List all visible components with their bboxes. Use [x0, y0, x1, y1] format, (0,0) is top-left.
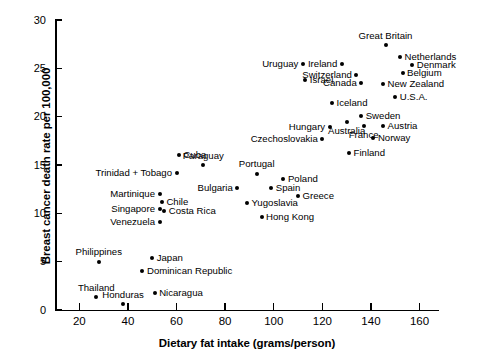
- x-tick-mark: [224, 303, 226, 310]
- data-point: [347, 151, 351, 155]
- data-point: [177, 153, 181, 157]
- data-point-label: Philippines: [76, 247, 122, 257]
- data-point: [345, 120, 349, 124]
- scatter-plot-figure: 051015202530 20406080100120140160 Great …: [0, 0, 482, 360]
- data-point-label: U.S.A.: [400, 92, 428, 102]
- x-tick-label: 40: [108, 315, 148, 327]
- x-tick-label: 160: [400, 315, 440, 327]
- x-tick-mark: [79, 303, 81, 310]
- x-tick-mark: [176, 303, 178, 310]
- y-tick-mark: [55, 68, 62, 70]
- y-tick-mark: [55, 261, 62, 263]
- data-point-label: Nicaragua: [159, 288, 203, 298]
- data-point: [245, 201, 249, 205]
- data-point-label: Canada: [323, 78, 357, 88]
- plot-area: 051015202530 20406080100120140160 Great …: [0, 0, 482, 360]
- data-point-label: Hungary: [289, 122, 325, 132]
- data-point: [201, 163, 205, 167]
- data-point-label: Portugal: [239, 159, 275, 169]
- y-tick-mark: [55, 164, 62, 166]
- y-tick-label: 30: [12, 15, 46, 26]
- x-tick-label: 20: [59, 315, 99, 327]
- data-point: [381, 82, 385, 86]
- data-point-label: Finland: [354, 148, 385, 158]
- data-point: [381, 124, 385, 128]
- data-point: [328, 125, 332, 129]
- data-point-label: Great Britain: [359, 31, 413, 41]
- data-point: [398, 55, 402, 59]
- data-point: [235, 186, 239, 190]
- data-point-label: New Zealand: [388, 79, 445, 89]
- y-tick-label: 0: [12, 305, 46, 316]
- data-point: [97, 260, 101, 264]
- data-point-label: Paraguay: [183, 151, 224, 161]
- data-point-label: Greece: [303, 191, 334, 201]
- data-point: [281, 177, 285, 181]
- x-tick-mark: [419, 303, 421, 310]
- data-point: [121, 302, 125, 306]
- data-point: [359, 114, 363, 118]
- data-point: [359, 81, 363, 85]
- data-point-label: Japan: [157, 253, 183, 263]
- x-tick-mark: [127, 303, 129, 310]
- data-point: [260, 215, 264, 219]
- data-point: [269, 186, 273, 190]
- data-point: [162, 209, 166, 213]
- data-point-label: Ireland: [308, 59, 337, 69]
- data-point-label: Costa Rica: [169, 206, 216, 216]
- data-point-label: Venezuela: [110, 217, 155, 227]
- x-axis-title: Dietary fat intake (grams/person): [55, 337, 439, 349]
- data-point-label: Bulgaria: [198, 183, 233, 193]
- y-tick-mark: [55, 213, 62, 215]
- data-point: [158, 207, 162, 211]
- data-point: [393, 95, 397, 99]
- data-point-label: Honduras: [102, 290, 144, 300]
- data-point-label: Sweden: [366, 111, 401, 121]
- y-tick-mark: [55, 19, 62, 21]
- x-tick-mark: [370, 303, 372, 310]
- data-point-label: Spain: [276, 183, 301, 193]
- data-point: [158, 220, 162, 224]
- x-axis-line: [55, 310, 439, 312]
- x-tick-label: 60: [157, 315, 197, 327]
- data-point-label: Norway: [378, 133, 411, 143]
- data-point-label: Martinique: [110, 189, 155, 199]
- x-tick-label: 140: [351, 315, 391, 327]
- data-point: [175, 171, 179, 175]
- data-point-label: Dominican Republic: [147, 266, 232, 276]
- x-tick-label: 80: [205, 315, 245, 327]
- x-tick-mark: [273, 303, 275, 310]
- data-point-label: Austria: [388, 121, 418, 131]
- data-point-label: Belgium: [407, 68, 442, 78]
- data-point: [320, 137, 324, 141]
- data-point: [401, 71, 405, 75]
- data-point: [94, 295, 98, 299]
- x-tick-label: 100: [254, 315, 294, 327]
- data-point-label: Hong Kong: [266, 212, 314, 222]
- data-point: [330, 101, 334, 105]
- y-tick-mark: [55, 116, 62, 118]
- data-point: [255, 172, 259, 176]
- data-point: [301, 62, 305, 66]
- data-point-label: Czechoslovakia: [251, 134, 318, 144]
- data-point: [160, 200, 164, 204]
- data-point-label: Trinidad + Tobago: [95, 168, 172, 178]
- data-point-label: Yugoslavia: [252, 198, 298, 208]
- data-point: [303, 78, 307, 82]
- data-point: [140, 269, 144, 273]
- y-tick-mark: [55, 309, 62, 311]
- data-point-label: Singapore: [111, 204, 155, 214]
- data-point: [340, 62, 344, 66]
- x-tick-mark: [322, 303, 324, 310]
- data-point-label: Uruguay: [262, 59, 298, 69]
- data-point: [384, 43, 388, 47]
- data-point-label: Iceland: [337, 98, 368, 108]
- data-point: [158, 192, 162, 196]
- x-tick-label: 120: [302, 315, 342, 327]
- data-point: [150, 256, 154, 260]
- data-point: [153, 291, 157, 295]
- y-axis-title: Breast cancer death rate per 100,000: [40, 26, 52, 306]
